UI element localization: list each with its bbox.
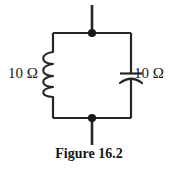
inductor-value-label: 10 Ω [8,65,38,82]
bottom-node-dot [88,114,96,122]
figure-container: 10 Ω 10 Ω Figure 16.2 [0,0,178,173]
figure-caption: Figure 16.2 [0,146,178,162]
inductor-coil-icon [43,52,53,97]
top-node-dot [88,29,96,37]
capacitor-value-label: 10 Ω [134,65,164,82]
